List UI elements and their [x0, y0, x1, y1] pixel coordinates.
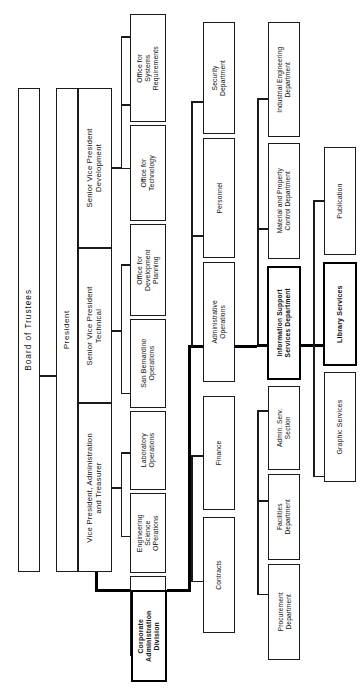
node-label: EngineeringScienceOPerations	[136, 514, 160, 552]
connector-level5-bus-upper	[257, 98, 259, 347]
connector-level6-bus-upper	[313, 200, 315, 346]
connector-to-san-bernardino	[121, 264, 131, 266]
connector-to-engineering-science-operations	[121, 452, 131, 454]
node-graphic-services: Graphic Services	[324, 372, 356, 482]
node-information-support-services-department: Information SupportServices Department	[267, 266, 301, 380]
node-finance: Finance	[203, 396, 235, 510]
node-corporate-administration-division: CorporateAdministrationDivision	[131, 590, 167, 682]
org-chart: Board of Trustees President Senior Vice …	[0, 0, 362, 694]
node-senior-vice-president-development: Senior Vice PresidentDevelopment	[78, 88, 112, 248]
connector-svpdev-bus	[121, 36, 123, 169]
node-office-for-technology: Office forTechnology	[130, 125, 166, 221]
node-industrial-engineering-department: Industrial EngineeringDepartment	[268, 22, 300, 137]
node-contracts: Contracts	[203, 517, 235, 633]
node-label: ProcurementDepartment	[276, 593, 292, 632]
node-label: Vice President, Administrationand Treasu…	[86, 433, 104, 543]
connector-level4-thin-bus	[191, 101, 193, 347]
node-label: Admin. Serv.Section	[276, 409, 292, 447]
node-label: Information SupportServices Department	[276, 288, 292, 357]
node-label: Industrial EngineeringDepartment	[276, 47, 292, 113]
node-material-and-property-control-department: Material and PropertyControl Department	[268, 143, 300, 259]
connector-to-office-systems-requirements	[121, 36, 131, 38]
node-personnel: Personnel	[203, 138, 235, 258]
node-administrative-operations: AdministrativeOperations	[203, 262, 235, 382]
node-label: Senior Vice PresidentTechnical	[86, 286, 104, 365]
node-office-for-development-planning: Office forDevelopmentPlanning	[130, 224, 166, 316]
node-procurement-department: ProcurementDepartment	[268, 564, 300, 660]
connector-to-office-development-planning	[121, 168, 131, 170]
node-library-services: Library Services	[323, 262, 357, 366]
node-label: Contracts	[215, 560, 223, 590]
node-label: Office forTechnology	[140, 155, 156, 191]
node-board-of-trustees: Board of Trustees	[18, 88, 40, 572]
connector-to-office-technology	[121, 104, 131, 106]
connector-board-president	[40, 375, 56, 377]
node-laboratory-operations: LaboratoryOperations	[130, 411, 166, 490]
node-president: President	[56, 88, 78, 572]
node-label: Personnel	[215, 182, 223, 213]
node-label: Publication	[336, 183, 344, 218]
node-label: Office forSystemsRequirements	[136, 46, 160, 90]
node-label: FacilitiesDepartment	[276, 499, 292, 534]
node-label: President	[62, 310, 71, 349]
node-label: Material and PropertyControl Department	[276, 168, 292, 233]
node-san-bernardino-operations: San BernardinoOperations	[130, 319, 166, 408]
node-label: SecurityDepartment	[211, 60, 227, 96]
node-label: LaboratoryOperations	[140, 433, 156, 468]
connector-level6-bus-lower	[313, 344, 315, 477]
connector-to-systems-engineering-operations	[121, 536, 131, 538]
connector-vpadmin-bus	[121, 452, 123, 537]
node-engineering-science-operations: EngineeringScienceOPerations	[130, 493, 166, 573]
node-admin-serv-section: Admin. Serv.Section	[268, 386, 300, 470]
node-office-for-systems-requirements: Office forSystemsRequirements	[130, 14, 166, 122]
node-label: Office forDevelopmentPlanning	[136, 249, 160, 291]
node-vice-president-administration-treasurer: Vice President, Administrationand Treasu…	[78, 403, 112, 572]
node-security-department: SecurityDepartment	[203, 22, 235, 134]
node-label: Graphic Services	[336, 400, 344, 455]
connector-to-laboratory-operations	[121, 393, 131, 395]
node-publication: Publication	[324, 147, 356, 255]
connector-svptech-bus	[121, 264, 123, 394]
node-label: San BernardinoOperations	[140, 339, 156, 388]
node-label: Finance	[215, 441, 223, 466]
node-label: AdministrativeOperations	[211, 300, 227, 343]
node-label: Library Services	[336, 285, 344, 343]
node-senior-vice-president-technical: Senior Vice PresidentTechnical	[78, 248, 112, 403]
node-facilities-department: FacilitiesDepartment	[268, 474, 300, 560]
node-label: Board of Trustees	[24, 289, 34, 371]
connector-level4-thin-bus-lower	[191, 455, 193, 582]
connector-level5-bus-lower	[257, 410, 259, 595]
node-label: CorporateAdministrationDivision	[137, 610, 161, 661]
connector-vpadmin-corporate-run	[95, 589, 131, 592]
node-label: Senior Vice PresidentDevelopment	[86, 128, 104, 207]
